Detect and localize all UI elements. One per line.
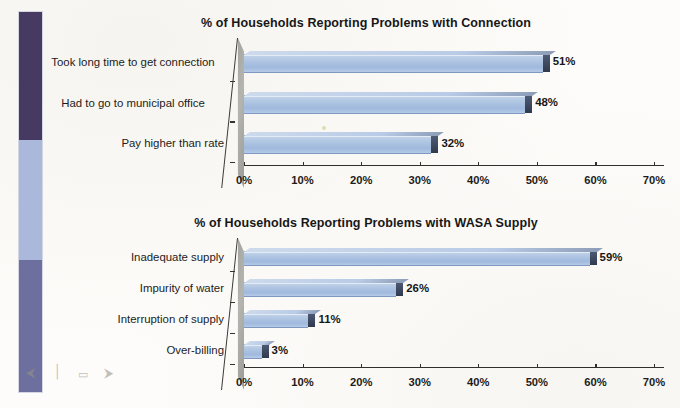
scan-speck bbox=[322, 126, 326, 130]
x-tick-label: 30% bbox=[409, 174, 431, 186]
x-tick-label: 20% bbox=[350, 174, 372, 186]
bar-3d-top bbox=[244, 341, 274, 345]
x-tick-label: 40% bbox=[467, 174, 489, 186]
bar-connection-problems-0 bbox=[244, 54, 543, 73]
wall-tick bbox=[230, 302, 235, 303]
bar-wasa-supply-problems-2 bbox=[244, 313, 308, 328]
category-labels-connection: Took long time to get connectionHad to g… bbox=[42, 38, 228, 188]
bar-3d-top bbox=[244, 310, 321, 314]
category-label: Pay higher than rate bbox=[42, 137, 224, 150]
bar-value-label: 11% bbox=[318, 313, 340, 325]
x-tick-60 bbox=[595, 162, 596, 166]
bar-value-label: 59% bbox=[600, 251, 623, 263]
wall-tick bbox=[230, 271, 235, 272]
x-tick-50 bbox=[537, 162, 538, 166]
bar-value-label: 26% bbox=[406, 282, 429, 294]
bar-wasa-supply-problems-1 bbox=[244, 282, 396, 297]
wall-tick bbox=[230, 364, 235, 365]
chart-3d-wall-connection bbox=[228, 38, 244, 188]
x-tick-30 bbox=[420, 364, 421, 368]
wall-tick bbox=[230, 121, 235, 122]
x-tick-10 bbox=[303, 364, 304, 368]
x-tick-70 bbox=[654, 162, 655, 166]
x-tick-label: 50% bbox=[526, 174, 548, 186]
category-label: Impurity of water bbox=[42, 282, 224, 295]
axis-area-connection: 0%10%20%30%40%50%60%70%51%48%32% bbox=[244, 38, 664, 188]
chart-title-wasa: % of Households Reporting Problems with … bbox=[42, 210, 680, 230]
x-tick-0 bbox=[244, 162, 245, 166]
bar-value-label: 48% bbox=[535, 96, 558, 108]
bar-value-label: 32% bbox=[441, 137, 464, 149]
x-tick-60 bbox=[595, 364, 596, 368]
category-label: Took long time to get connection bbox=[42, 56, 224, 69]
color-band-periwinkle bbox=[19, 140, 42, 260]
bar-connection-problems-2 bbox=[244, 135, 431, 154]
category-label: Inadequate supply bbox=[42, 251, 224, 264]
plot-area-wasa: Inadequate supplyImpurity of waterInterr… bbox=[42, 238, 680, 390]
chart-3d-wall-wasa bbox=[228, 238, 244, 390]
bar-3d-top bbox=[244, 279, 409, 283]
bar-wasa-supply-problems-3 bbox=[244, 344, 262, 359]
x-tick-label: 20% bbox=[350, 376, 372, 388]
x-tick-label: 50% bbox=[526, 376, 548, 388]
wall-tick bbox=[230, 162, 235, 163]
category-label: Had to go to municipal office bbox=[42, 97, 224, 110]
x-tick-50 bbox=[537, 364, 538, 368]
color-band-dark-purple bbox=[19, 12, 42, 140]
bar-value-label: 51% bbox=[553, 56, 576, 68]
chart-title-connection: % of Households Reporting Problems with … bbox=[42, 10, 680, 30]
x-tick-20 bbox=[361, 364, 362, 368]
x-tick-10 bbox=[303, 162, 304, 166]
x-tick-label: 60% bbox=[584, 376, 606, 388]
x-tick-label: 10% bbox=[291, 376, 313, 388]
bar-wasa-supply-problems-0 bbox=[244, 251, 590, 266]
wall-tick bbox=[230, 81, 235, 82]
plot-area-connection: Took long time to get connectionHad to g… bbox=[42, 38, 680, 188]
x-tick-40 bbox=[478, 364, 479, 368]
x-tick-20 bbox=[361, 162, 362, 166]
x-tick-label: 0% bbox=[236, 174, 252, 186]
x-tick-40 bbox=[478, 162, 479, 166]
x-axis-line-connection bbox=[244, 165, 664, 166]
bar-3d-top bbox=[244, 92, 538, 96]
bar-value-label: 3% bbox=[272, 344, 288, 356]
x-tick-label: 0% bbox=[236, 376, 252, 388]
category-label: Over-billing bbox=[42, 344, 224, 357]
category-label: Interruption of supply bbox=[42, 313, 224, 326]
arrow-left-mark: ⮜ bbox=[26, 366, 35, 379]
category-labels-wasa: Inadequate supplyImpurity of waterInterr… bbox=[42, 238, 228, 390]
x-tick-label: 60% bbox=[584, 174, 606, 186]
x-axis-line-wasa bbox=[244, 367, 664, 368]
axis-area-wasa: 0%10%20%30%40%50%60%70%59%26%11%3% bbox=[244, 238, 664, 390]
wall-tick bbox=[230, 333, 235, 334]
x-tick-label: 10% bbox=[291, 174, 313, 186]
decorative-color-strip bbox=[19, 12, 42, 392]
bar-3d-top bbox=[244, 248, 602, 252]
x-tick-label: 40% bbox=[467, 376, 489, 388]
chart-wasa-supply-problems: % of Households Reporting Problems with … bbox=[42, 210, 680, 406]
bar-3d-top bbox=[244, 132, 444, 136]
x-tick-30 bbox=[420, 162, 421, 166]
chart-connection-problems: % of Households Reporting Problems with … bbox=[42, 10, 680, 202]
bar-connection-problems-1 bbox=[244, 95, 525, 114]
x-tick-label: 70% bbox=[643, 376, 665, 388]
x-tick-0 bbox=[244, 364, 245, 368]
x-tick-label: 30% bbox=[409, 376, 431, 388]
bar-3d-top bbox=[244, 51, 556, 55]
x-tick-70 bbox=[654, 364, 655, 368]
x-tick-label: 70% bbox=[643, 174, 665, 186]
